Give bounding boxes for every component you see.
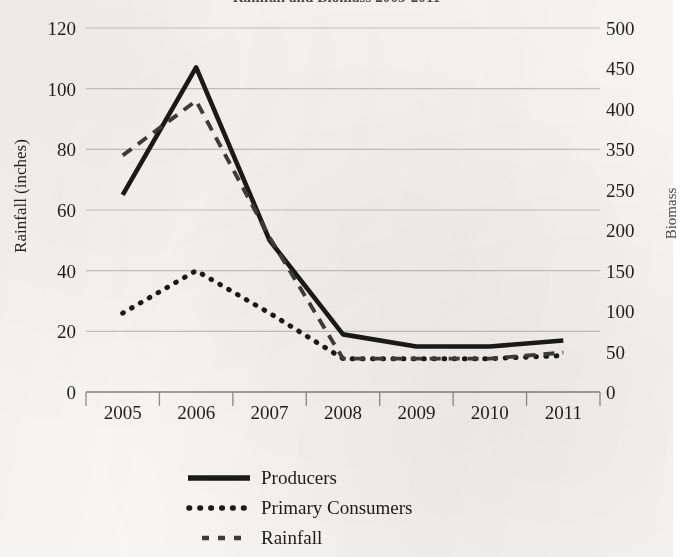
x-axis-tick: 2005 [83,403,163,422]
legend-item-producers: Producers [186,463,412,493]
x-axis-tick: 2008 [303,403,383,422]
legend-item-rainfall: Rainfall [186,523,412,553]
x-axis-tick: 2010 [450,403,530,422]
x-axis-tick: 2009 [376,403,456,422]
x-axis-tick: 2006 [156,403,236,422]
legend-label-primary-consumers: Primary Consumers [261,497,412,519]
legend-item-primary-consumers: Primary Consumers [186,493,412,523]
legend: Producers Primary Consumers Rainfall [186,463,412,553]
x-axis-tick: 2007 [230,403,310,422]
dashed-line-key [186,529,252,547]
legend-label-rainfall: Rainfall [261,527,322,549]
dotted-line-key [186,499,252,517]
solid-line-key [186,469,252,487]
legend-label-producers: Producers [261,467,337,489]
x-axis-tick: 2011 [523,403,603,422]
